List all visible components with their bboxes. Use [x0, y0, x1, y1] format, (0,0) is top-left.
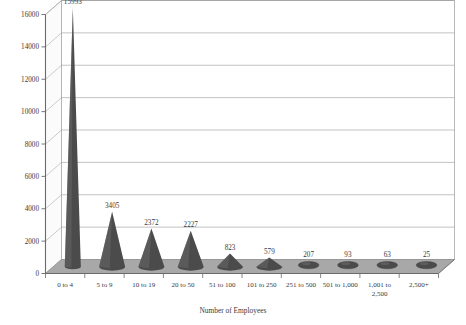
y-tick-label: 10000 [21, 108, 39, 116]
y-tick-label: 2000 [25, 238, 40, 246]
bar-value-label: 207 [303, 251, 314, 259]
bar-cone [377, 261, 398, 268]
bar-value-label: 823 [225, 244, 236, 252]
employee-distribution-3d-cone-chart: 0200040006000800010000120001400016000 15… [0, 0, 466, 325]
y-tick-label: 16000 [21, 11, 39, 19]
bar-value-label: 63 [384, 251, 392, 259]
y-tick-label: 14000 [21, 43, 39, 51]
x-tick-label: 10 to 19 [132, 281, 155, 289]
x-tick-label: 5 to 9 [96, 281, 112, 289]
bar-cone [298, 261, 319, 268]
y-tick-label: 6000 [25, 173, 40, 181]
x-tick-label: 0 to 4 [57, 281, 73, 289]
bar-value-label: 25 [423, 251, 431, 259]
bar-value-label: 93 [344, 251, 352, 259]
bar-value-label: 15993 [64, 0, 82, 6]
x-tick-label: 251 to 500 [286, 281, 316, 289]
bar-cone [338, 261, 359, 268]
y-tick-label: 8000 [25, 141, 40, 149]
bar-value-label: 3405 [105, 202, 120, 210]
bar-value-label: 579 [264, 248, 275, 256]
y-tick-label: 12000 [21, 76, 39, 84]
y-tick-label: 4000 [25, 205, 40, 213]
x-tick-label: 51 to 100 [209, 281, 236, 289]
bar-cone [416, 261, 437, 268]
chart-container: 0200040006000800010000120001400016000 15… [0, 0, 466, 325]
x-axis-title: Number of Employees [200, 306, 267, 315]
bar-value-label: 2227 [184, 221, 199, 229]
x-tick-label: 101 to 250 [247, 281, 277, 289]
x-tick-label: 20 to 50 [172, 281, 195, 289]
x-tick-label: 501 to 1,000 [323, 281, 359, 289]
y-tick-label: 0 [35, 270, 39, 278]
x-tick-label: 2,500+ [409, 281, 429, 289]
bar-value-label: 2372 [144, 219, 159, 227]
